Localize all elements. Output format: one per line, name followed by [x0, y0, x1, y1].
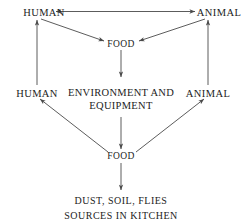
edge-human-top-to-food-top — [41, 19, 104, 41]
environment-line-1: ENVIRONMENT AND — [68, 87, 174, 98]
node-food-bottom: FOOD — [107, 151, 134, 162]
contamination-cycle-diagram: HUMAN ANIMAL FOOD HUMAN ANIMAL ENVIRONME… — [0, 0, 243, 224]
edge-animal-top-to-food-top — [139, 19, 205, 41]
node-animal-mid: ANIMAL — [186, 88, 230, 99]
node-environment-and-equipment: ENVIRONMENT AND EQUIPMENT — [68, 86, 174, 112]
sources-line-2: SOURCES IN KITCHEN — [64, 208, 177, 223]
node-human-top: HUMAN — [23, 7, 65, 18]
diagram-edge-layer — [0, 0, 243, 224]
node-human-mid: HUMAN — [16, 88, 58, 99]
environment-line-2: EQUIPMENT — [68, 99, 174, 112]
sources-line-1: DUST, SOIL, FLIES — [75, 195, 168, 206]
node-contamination-sources: DUST, SOIL, FLIES SOURCES IN KITCHEN — [64, 193, 177, 223]
node-animal-top: ANIMAL — [197, 7, 241, 18]
node-food-top: FOOD — [107, 39, 134, 50]
